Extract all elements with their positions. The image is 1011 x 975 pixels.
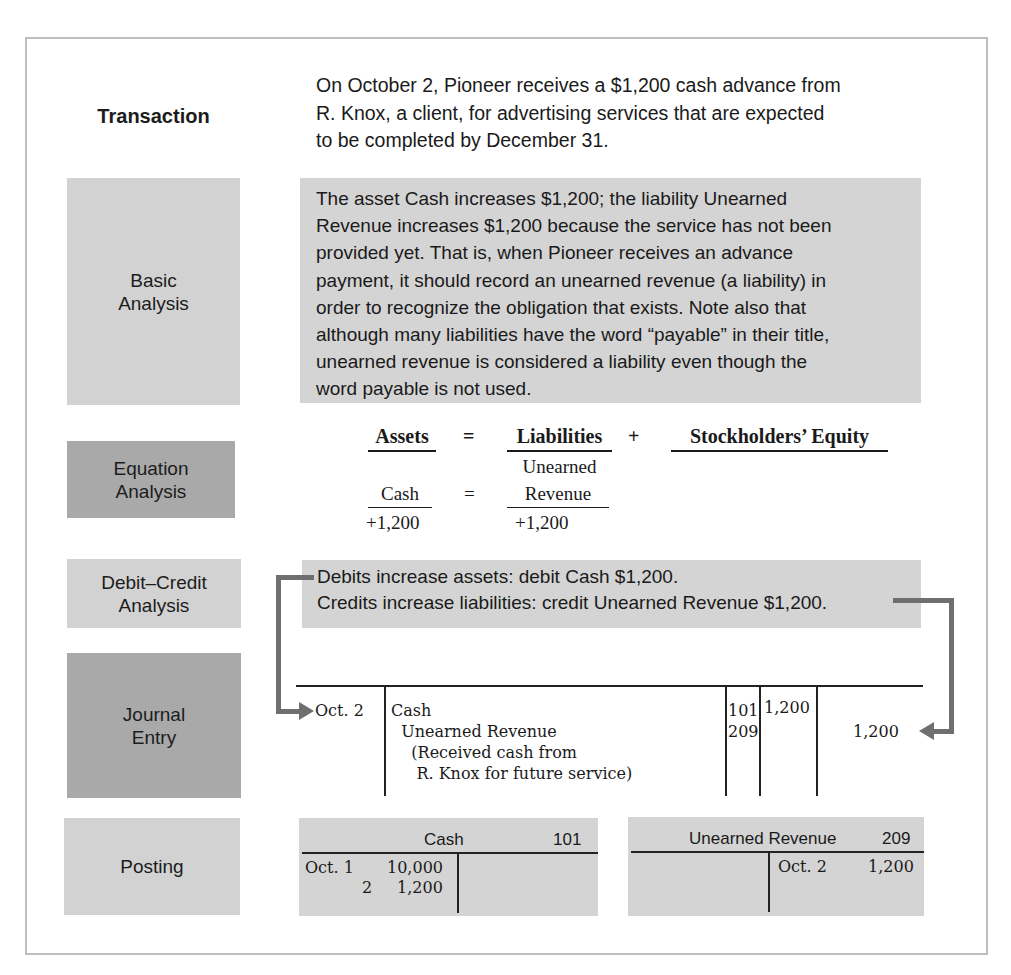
credit-arrow-icon xyxy=(949,598,954,734)
basic-analysis-text: The asset Cash increases $1,200; the lia… xyxy=(300,178,921,403)
eq-header-equals: = xyxy=(463,425,474,448)
journal-divider xyxy=(759,686,761,796)
eq-header-equity: Stockholders’ Equity xyxy=(671,425,888,452)
t-account-rule xyxy=(302,852,598,854)
basic-analysis-line: order to recognize the obligation that e… xyxy=(316,294,921,321)
journal-account-credit: Unearned Revenue xyxy=(391,721,557,742)
eq-asset-change: +1,200 xyxy=(366,512,419,534)
journal-divider xyxy=(816,686,818,796)
transaction-line: to be completed by December 31. xyxy=(316,127,936,155)
eq-row-equals: = xyxy=(464,483,475,505)
journal-account-debit: Cash xyxy=(391,700,431,721)
label-posting: Posting xyxy=(64,818,240,915)
t-entry-date: 2 xyxy=(362,878,372,898)
journal-ref-credit: 209 xyxy=(728,721,759,742)
journal-debit-amount: 1,200 xyxy=(764,697,810,718)
basic-analysis-line: payment, it should record an unearned re… xyxy=(316,267,921,294)
journal-explanation: (Received cash from xyxy=(391,742,577,763)
journal-divider xyxy=(384,686,386,796)
t-account-title: Unearned Revenue xyxy=(689,829,836,849)
debit-arrow-icon xyxy=(276,575,314,580)
credit-arrow-icon xyxy=(932,729,954,734)
journal-ref-debit: 101 xyxy=(728,700,759,721)
t-account-divider xyxy=(457,853,459,913)
debit-arrow-icon xyxy=(276,709,300,714)
eq-liability-account-line1: Unearned xyxy=(507,456,612,478)
t-account-unearned-revenue: Unearned Revenue 209 Oct. 2 1,200 xyxy=(628,817,924,916)
t-entry-amount: 1,200 xyxy=(868,857,914,877)
debit-credit-text: Debits increase assets: debit Cash $1,20… xyxy=(302,560,921,628)
basic-analysis-line: provided yet. That is, when Pioneer rece… xyxy=(316,239,921,266)
t-account-number: 101 xyxy=(553,830,581,850)
transaction-line: On October 2, Pioneer receives a $1,200 … xyxy=(316,72,936,100)
eq-header-plus: + xyxy=(628,425,639,448)
basic-analysis-line: Revenue increases $1,200 because the ser… xyxy=(316,212,921,239)
t-account-cash: Cash 101 Oct. 1 10,000 2 1,200 xyxy=(299,818,598,916)
eq-liability-change: +1,200 xyxy=(515,512,568,534)
eq-header-assets: Assets xyxy=(368,425,436,452)
t-entry-amount: 1,200 xyxy=(397,878,443,898)
label-journal-entry: Journal Entry xyxy=(67,653,241,798)
arrow-head-left-icon xyxy=(919,722,934,740)
eq-asset-account: Cash xyxy=(368,483,432,508)
basic-analysis-line: The asset Cash increases $1,200; the lia… xyxy=(316,185,921,212)
t-account-number: 209 xyxy=(882,829,910,849)
basic-analysis-line: unearned revenue is considered a liabili… xyxy=(316,348,921,375)
label-basic-analysis: Basic Analysis xyxy=(67,178,240,405)
t-account-title: Cash xyxy=(424,830,464,850)
eq-liability-account-line2: Revenue xyxy=(507,483,609,508)
debit-credit-line: Debits increase assets: debit Cash $1,20… xyxy=(317,564,921,590)
debit-arrow-icon xyxy=(276,575,281,714)
t-entry-date: Oct. 2 xyxy=(778,857,827,877)
transaction-text: On October 2, Pioneer receives a $1,200 … xyxy=(316,72,936,155)
t-account-divider xyxy=(768,852,770,912)
t-account-rule xyxy=(631,851,924,853)
label-equation-analysis: Equation Analysis xyxy=(67,441,235,518)
t-entry-amount: 10,000 xyxy=(387,858,443,878)
credit-arrow-icon xyxy=(893,598,954,603)
journal-date: Oct. 2 xyxy=(315,700,364,721)
t-entry-date: Oct. 1 xyxy=(305,858,354,878)
label-transaction: Transaction xyxy=(66,96,241,136)
arrow-head-right-icon xyxy=(299,702,314,720)
debit-credit-line: Credits increase liabilities: credit Une… xyxy=(317,590,921,616)
journal-divider xyxy=(725,686,727,796)
basic-analysis-line: word payable is not used. xyxy=(316,375,921,402)
basic-analysis-line: although many liabilities have the word … xyxy=(316,321,921,348)
eq-header-liabilities: Liabilities xyxy=(507,425,612,452)
transaction-line: R. Knox, a client, for advertising servi… xyxy=(316,100,936,128)
journal-explanation: R. Knox for future service) xyxy=(391,763,632,784)
label-debit-credit-analysis: Debit–Credit Analysis xyxy=(67,559,241,628)
journal-credit-amount: 1,200 xyxy=(853,721,899,742)
journal-top-rule xyxy=(296,685,923,687)
